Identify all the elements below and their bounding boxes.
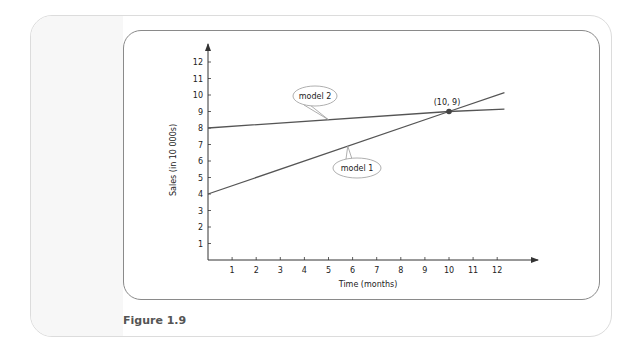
y-tick-label: 2 bbox=[198, 223, 203, 232]
callout-label: model 1 bbox=[341, 164, 374, 173]
x-tick-label: 9 bbox=[422, 266, 427, 275]
figure-caption: Figure 1.9 bbox=[123, 314, 186, 327]
callout-pointer bbox=[346, 146, 352, 159]
x-tick-label: 1 bbox=[230, 266, 235, 275]
x-tick-label: 4 bbox=[302, 266, 307, 275]
callout-label: model 2 bbox=[299, 92, 332, 101]
line-chart: 123456789101112123456789101112 model 1mo… bbox=[0, 0, 640, 352]
x-tick-label: 10 bbox=[444, 266, 454, 275]
y-tick-label: 7 bbox=[198, 141, 203, 150]
y-tick-label: 6 bbox=[198, 157, 203, 166]
x-tick-label: 7 bbox=[374, 266, 379, 275]
y-tick-label: 4 bbox=[198, 190, 203, 199]
x-tick-label: 12 bbox=[492, 266, 502, 275]
x-axis-label: Time (months) bbox=[338, 280, 398, 289]
y-tick-label: 9 bbox=[198, 108, 203, 117]
y-tick-label: 11 bbox=[193, 75, 203, 84]
callout-pointer bbox=[304, 105, 329, 120]
chart-axes bbox=[208, 44, 538, 260]
series-callouts: model 1model 2 bbox=[293, 86, 381, 178]
intersection-label: (10, 9) bbox=[434, 98, 461, 107]
data-lines bbox=[208, 93, 504, 194]
y-tick-label: 8 bbox=[198, 124, 203, 133]
y-tick-label: 3 bbox=[198, 207, 203, 216]
y-tick-label: 12 bbox=[193, 58, 203, 67]
y-tick-label: 5 bbox=[198, 174, 203, 183]
x-tick-label: 8 bbox=[398, 266, 403, 275]
x-tick-label: 5 bbox=[326, 266, 331, 275]
intersection-point bbox=[446, 109, 452, 115]
callout-model-2: model 2 bbox=[293, 86, 337, 120]
series-line-model-2 bbox=[208, 109, 504, 128]
x-tick-label: 2 bbox=[254, 266, 259, 275]
series-line-model-1 bbox=[208, 93, 504, 194]
y-tick-label: 10 bbox=[193, 91, 203, 100]
y-tick-label: 1 bbox=[198, 240, 203, 249]
x-tick-label: 11 bbox=[468, 266, 478, 275]
x-tick-label: 3 bbox=[278, 266, 283, 275]
y-axis-label: Sales (in 10 000s) bbox=[169, 124, 178, 196]
x-tick-label: 6 bbox=[350, 266, 355, 275]
callout-model-1: model 1 bbox=[333, 146, 381, 178]
